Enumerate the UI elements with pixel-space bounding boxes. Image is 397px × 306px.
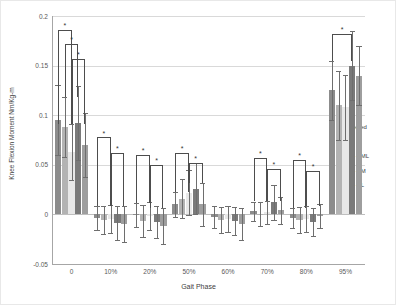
error-bar — [313, 208, 314, 236]
error-bar — [228, 206, 229, 232]
error-bar-cap — [232, 235, 237, 236]
x-axis-line — [52, 264, 365, 265]
error-bar — [345, 75, 346, 140]
gridline — [52, 66, 365, 67]
error-bar-cap — [186, 215, 191, 216]
error-bar-cap — [317, 228, 322, 229]
error-bar-cap — [219, 233, 224, 234]
error-bar-cap — [140, 205, 145, 206]
error-bar-cap — [290, 208, 295, 209]
error-bar-cap — [173, 192, 178, 193]
significance-bracket — [189, 163, 203, 183]
error-bar-cap — [225, 206, 230, 207]
error-bar-cap — [115, 240, 120, 241]
error-bar-cap — [265, 224, 270, 225]
significance-asterisk: * — [155, 157, 158, 164]
significance-asterisk: * — [341, 26, 344, 33]
error-bar-cap — [311, 208, 316, 209]
error-bar-cap — [212, 228, 217, 229]
error-bar-cap — [239, 208, 244, 209]
error-bar-cap — [336, 140, 341, 141]
error-bar-cap — [356, 46, 361, 47]
error-bar — [72, 124, 73, 180]
significance-asterisk: * — [181, 145, 184, 152]
error-bar-cap — [180, 218, 185, 219]
error-bar-cap — [200, 183, 205, 184]
error-bar — [306, 206, 307, 232]
error-bar-cap — [251, 221, 256, 222]
x-tick-label: 0 — [70, 268, 74, 276]
y-tick-label: 0.2 — [4, 13, 48, 20]
error-bar — [136, 203, 137, 227]
error-bar-cap — [225, 232, 230, 233]
x-tick-label: 60% — [222, 268, 235, 276]
knee-flexion-moment-chart: -0.0500.050.10.150.2 010%20%50%60%70%80%… — [0, 0, 397, 306]
error-bar-cap — [350, 31, 355, 32]
error-bar — [242, 208, 243, 240]
significance-asterisk: * — [70, 36, 73, 43]
significance-bracket — [254, 158, 268, 202]
significance-bracket — [136, 155, 150, 204]
error-bar-cap — [219, 207, 224, 208]
x-tick-label: 20% — [143, 268, 156, 276]
error-bar — [254, 202, 255, 222]
error-bar — [157, 206, 158, 238]
y-axis-title: Knee Flexion Moment Nm/Kg-m — [8, 49, 15, 219]
error-bar — [85, 113, 86, 176]
error-bar — [221, 207, 222, 233]
error-bar-cap — [134, 203, 139, 204]
error-bar-cap — [69, 180, 74, 181]
error-bar — [260, 202, 261, 226]
x-tick-label: 95% — [339, 268, 352, 276]
error-bar-cap — [258, 202, 263, 203]
error-bar — [300, 207, 301, 233]
error-bar-cap — [101, 206, 106, 207]
significance-asterisk: * — [142, 147, 145, 154]
error-bar-cap — [69, 124, 74, 125]
error-bar-cap — [173, 217, 178, 218]
significance-asterisk: * — [77, 51, 80, 58]
significance-asterisk: * — [194, 155, 197, 162]
significance-bracket — [175, 153, 189, 192]
error-bar-cap — [122, 242, 127, 243]
significance-bracket — [267, 169, 281, 201]
significance-bracket — [293, 160, 307, 209]
error-bar-cap — [83, 177, 88, 178]
error-bar-cap — [258, 226, 263, 227]
error-bar-cap — [161, 208, 166, 209]
error-bar-cap — [271, 220, 276, 221]
error-bar-cap — [232, 207, 237, 208]
error-bar-cap — [356, 105, 361, 106]
significance-asterisk: * — [259, 150, 262, 157]
error-bar-cap — [329, 61, 334, 62]
significance-bracket — [111, 153, 125, 207]
error-bar — [339, 71, 340, 140]
significance-bracket — [97, 137, 111, 206]
x-tick-label: 10% — [104, 268, 117, 276]
error-bar-cap — [101, 234, 106, 235]
error-bar-cap — [94, 230, 99, 231]
y-axis-line — [52, 16, 53, 264]
error-bar — [214, 206, 215, 228]
significance-bracket — [332, 34, 352, 61]
x-axis-title: Gait Phase — [0, 283, 397, 290]
error-bar — [293, 208, 294, 228]
significance-asterisk: * — [103, 130, 106, 137]
error-bar-cap — [115, 206, 120, 207]
error-bar-cap — [290, 228, 295, 229]
error-bar — [203, 183, 204, 227]
error-bar-cap — [200, 226, 205, 227]
error-bar — [111, 205, 112, 233]
significance-bracket — [306, 171, 320, 207]
error-bar — [320, 204, 321, 228]
error-bar-cap — [304, 232, 309, 233]
error-bar — [352, 31, 353, 100]
gridline — [52, 16, 365, 17]
error-bar-cap — [122, 206, 127, 207]
error-bar-cap — [311, 236, 316, 237]
error-bar-cap — [212, 206, 217, 207]
error-bar — [163, 208, 164, 244]
error-bar-cap — [343, 75, 348, 76]
error-bar — [332, 61, 333, 121]
error-bar — [143, 205, 144, 237]
